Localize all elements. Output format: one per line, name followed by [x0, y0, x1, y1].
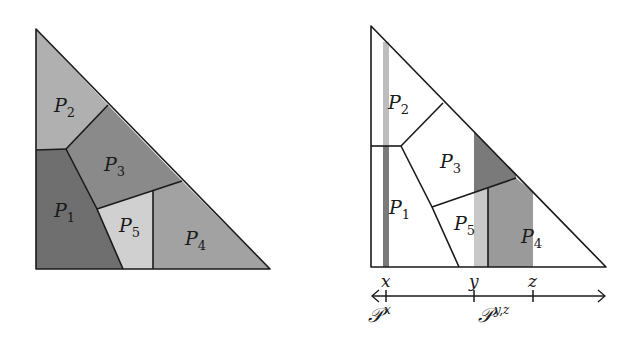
tick-label-y: y: [468, 271, 479, 291]
left-triangle-partition: P2 P3 P1 P5 P4: [36, 29, 270, 269]
number-line: x y z 𝒫x 𝒫y,z: [368, 271, 605, 327]
partition-diagram: P2 P3 P1 P5 P4 P2 P3 P1 P5 P4: [0, 0, 635, 345]
left-edge-p1-p2: [36, 149, 66, 150]
family-label-pyz: 𝒫y,z: [478, 303, 510, 327]
family-label-px: 𝒫x: [368, 303, 391, 327]
tick-label-z: z: [527, 271, 538, 291]
right-label-p5: P5: [453, 212, 475, 238]
right-label-p1: P1: [388, 196, 410, 222]
right-label-p2: P2: [387, 91, 409, 117]
left-region-p4: [153, 181, 270, 269]
tick-label-x: x: [381, 271, 391, 291]
right-triangle-partition: P2 P3 P1 P5 P4: [371, 26, 606, 267]
band-yz-p5-part: [474, 188, 488, 267]
band-yz-p4-part: [488, 178, 533, 267]
right-label-p3: P3: [439, 150, 461, 176]
